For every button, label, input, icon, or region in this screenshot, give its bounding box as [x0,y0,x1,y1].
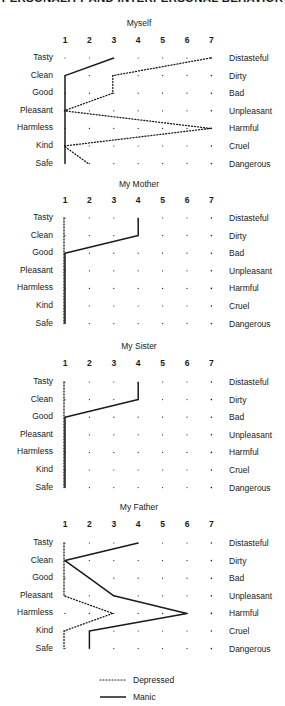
x-tick-label: 3 [111,519,116,529]
grid-dot [162,57,163,58]
grid-dot [113,217,114,218]
left-scale-label: Clean [31,555,53,565]
grid-dot [138,288,139,289]
manic-line [65,218,138,324]
grid-dot [211,434,213,436]
right-scale-label: Cruel [229,301,249,311]
grid-dot [138,253,139,254]
grid-dot [113,434,114,435]
right-scale-label: Distasteful [229,213,269,223]
grid-dot [138,57,139,58]
chart-my-mother: My Mother1234567TastyDistastefulCleanDir… [17,179,273,329]
grid-dot [211,577,213,579]
grid-dot [64,578,65,579]
grid-dot [89,128,90,129]
grid-dot [138,469,139,470]
grid-dot [162,163,163,164]
grid-dot [162,452,163,453]
grid-dot [113,110,114,111]
right-scale-label: Harmful [229,283,259,293]
right-scale-label: Unpleasant [229,430,273,440]
grid-dot [211,217,213,219]
manic-line [65,382,138,488]
grid-dot [138,434,139,435]
legend-manic-label: Manic [133,692,156,702]
left-scale-label: Tasty [33,537,54,547]
grid-dot [138,163,139,164]
grid-dot [113,323,114,324]
grid-dot [211,235,213,237]
x-tick-label: 1 [63,195,68,205]
grid-dot [162,487,163,488]
grid-dot [113,381,114,382]
grid-dot [211,542,213,544]
x-tick-label: 7 [209,35,214,45]
grid-dot [138,613,139,614]
right-scale-label: Distasteful [229,377,269,387]
grid-dot [211,452,213,454]
x-tick-label: 1 [63,519,68,529]
grid-dot [113,145,114,146]
grid-dot [162,595,163,596]
x-tick-label: 7 [209,519,214,529]
grid-dot [186,417,187,418]
right-scale-label: Dirty [229,71,247,81]
grid-dot [113,630,114,631]
grid-dot [89,270,90,271]
grid-dot [89,288,90,289]
grid-dot [211,92,213,94]
x-tick-label: 6 [185,195,190,205]
left-scale-label: Safe [36,318,54,328]
x-tick-label: 2 [87,195,92,205]
grid-dot [89,323,90,324]
grid-dot [162,542,163,543]
legend-depressed-label: Depressed [133,675,174,685]
grid-dot [89,613,90,614]
grid-dot [138,305,139,306]
grid-dot [162,217,163,218]
left-scale-label: Harmless [17,282,53,292]
grid-dot [211,648,213,650]
grid-dot [162,110,163,111]
grid-dot [89,381,90,382]
grid-dot [186,75,187,76]
grid-dot [113,469,114,470]
x-tick-label: 7 [209,195,214,205]
grid-dot [138,145,139,146]
grid-dot [162,399,163,400]
grid-dot [113,542,114,543]
grid-dot [64,613,65,614]
left-scale-label: Clean [31,70,53,80]
grid-dot [138,128,139,129]
chart-my-father: My Father1234567TastyDistastefulCleanDir… [17,502,273,654]
grid-dot [186,217,187,218]
right-scale-label: Cruel [229,626,249,636]
grid-dot [138,75,139,76]
left-scale-label: Clean [31,394,53,404]
grid-dot [162,323,163,324]
grid-dot [89,57,90,58]
right-scale-label: Distasteful [229,538,269,548]
grid-dot [186,323,187,324]
left-scale-label: Pleasant [20,105,54,115]
left-scale-label: Clean [31,230,53,240]
grid-dot [138,417,139,418]
x-tick-label: 2 [87,358,92,368]
grid-dot [64,57,65,58]
grid-dot [89,217,90,218]
grid-dot [138,270,139,271]
left-scale-label: Harmless [17,122,53,132]
grid-dot [211,399,213,401]
grid-dot [211,145,213,147]
right-scale-label: Dangerous [229,159,271,169]
right-scale-label: Dirty [229,395,247,405]
left-scale-label: Safe [36,643,54,653]
grid-dot [186,305,187,306]
grid-dot [138,648,139,649]
grid-dot [89,305,90,306]
grid-dot [113,305,114,306]
grid-dot [89,452,90,453]
left-scale-label: Kind [36,464,53,474]
grid-dot [211,305,213,307]
grid-dot [113,578,114,579]
